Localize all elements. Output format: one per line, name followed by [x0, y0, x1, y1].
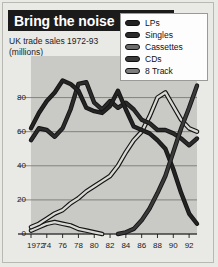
xtick-label-84: 84 [118, 241, 134, 250]
xtick-label-80: 80 [86, 241, 102, 250]
legend-item-label: CDs [145, 54, 162, 64]
chart-figure: Bring the noise UK trade sales 1972-93 (… [0, 0, 218, 267]
legend-item-singles[interactable]: Singles [125, 29, 204, 41]
chart-legend: LPsSinglesCassettesCDs8 Track [120, 13, 208, 81]
legend-item-label: LPs [145, 18, 160, 28]
ytick-label-80: 80 [0, 93, 26, 102]
legend-item-label: 8 Track [145, 66, 173, 76]
legend-item-lps[interactable]: LPs [125, 17, 204, 29]
legend-item-label: Singles [145, 30, 173, 40]
source-note: Source: BPI Surveys [217, 138, 218, 207]
ytick-label-0: 0 [0, 229, 26, 238]
legend-swatch-icon [125, 68, 140, 74]
legend-swatch-icon [125, 44, 140, 50]
xtick-label-90: 90 [165, 241, 181, 250]
legend-swatch-icon [125, 20, 140, 26]
xtick-label-88: 88 [149, 241, 165, 250]
legend-item-cds[interactable]: CDs [125, 53, 204, 65]
xtick-label-76: 76 [55, 241, 71, 250]
legend-swatch-icon [125, 56, 140, 62]
ytick-label-60: 60 [0, 127, 26, 136]
legend-item-8-track[interactable]: 8 Track [125, 65, 204, 77]
xtick-label-92: 92 [181, 241, 197, 250]
legend-swatch-icon [125, 32, 140, 38]
ytick-label-20: 20 [0, 195, 26, 204]
plot-background [31, 56, 197, 234]
xtick-label-74: 74 [39, 241, 55, 250]
xtick-label-82: 82 [102, 241, 118, 250]
ytick-label-40: 40 [0, 161, 26, 170]
xtick-label-86: 86 [134, 241, 150, 250]
legend-item-label: Cassettes [145, 42, 183, 52]
legend-item-cassettes[interactable]: Cassettes [125, 41, 204, 53]
xtick-label-78: 78 [70, 241, 86, 250]
